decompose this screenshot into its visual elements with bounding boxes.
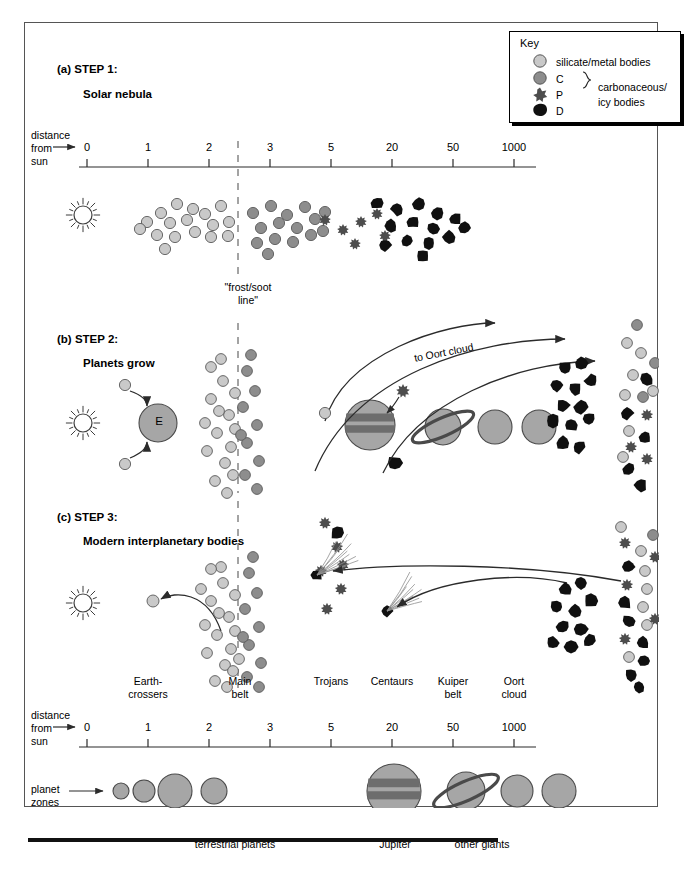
axis-tick-label: 20 (374, 141, 410, 154)
uranus-planet-zone (501, 775, 533, 807)
d-type-body (584, 634, 596, 646)
silicate-body (206, 394, 217, 405)
d-type-body (568, 604, 581, 618)
silicate-body (210, 476, 221, 487)
sun-ray (87, 589, 89, 593)
d-type-body (638, 656, 651, 666)
key-group-label-line1: carbonaceous/ (598, 81, 667, 93)
sun-ray (71, 411, 76, 416)
sun-ray (90, 430, 95, 435)
zone-label-1: Main (200, 675, 280, 688)
bottom-axis-label-line2: from (31, 722, 52, 734)
d-type-body (634, 681, 644, 693)
terrestrial-planet-3 (158, 774, 192, 808)
key-group-label-line2: icy bodies (598, 96, 645, 108)
sun-ray (71, 430, 76, 435)
axis-tick-label: 1 (130, 141, 166, 154)
silicate-body (234, 654, 245, 665)
axis-tick-label: 2 (191, 721, 227, 734)
planet-zones-label-line1: planet (31, 783, 60, 795)
c-type-body (252, 588, 263, 599)
c-type-body (305, 229, 316, 240)
sun-ray (77, 225, 79, 229)
axis-tick-label: 3 (252, 141, 288, 154)
c-type-body (236, 430, 247, 441)
planet-zones-label-line2: zones (31, 796, 59, 808)
silicate-body (206, 362, 217, 373)
capture-arrow (387, 397, 399, 413)
c-type-body (247, 207, 258, 218)
d-type-body (417, 251, 428, 262)
silicate-body (230, 388, 241, 399)
d-type-body (402, 235, 413, 247)
c-type-body (256, 658, 267, 669)
silicate-body (171, 198, 182, 209)
c-type-body (648, 530, 659, 541)
ejection-arrow-0 (325, 323, 495, 421)
p-star-icon (533, 87, 547, 102)
d-type-body (583, 373, 596, 386)
d-type-body (559, 362, 570, 373)
silicate-body (206, 564, 217, 575)
axis-tick-label: 3 (252, 721, 288, 734)
c-type-body (244, 568, 255, 579)
d-type-body (574, 623, 589, 636)
step2-subtitle: Planets grow (83, 357, 155, 370)
d-type-body (407, 217, 419, 227)
silicate-body (199, 208, 210, 219)
p-type-body (641, 453, 653, 465)
sun-ray (77, 613, 79, 617)
silicate-body (220, 458, 231, 469)
c-type-body (254, 622, 265, 633)
bottom-axis-label-line1: distance (31, 709, 70, 721)
key-title: Key (520, 37, 539, 50)
d-type-body (640, 373, 652, 386)
c-type-body (273, 217, 284, 228)
step2-tag: (b) STEP 2: (57, 333, 118, 346)
d-type-body (449, 214, 460, 225)
d-type-body (564, 640, 579, 653)
zone-label-5-line2: cloud (474, 688, 554, 701)
p-type-body (619, 633, 631, 645)
silicate-body (624, 426, 635, 437)
sun-ray (90, 610, 95, 615)
sun-icon-step3 (74, 594, 92, 612)
bottom-rule (28, 838, 498, 842)
d-type-body (431, 207, 443, 220)
axis-tick-label: 0 (69, 721, 105, 734)
d-type-body (550, 380, 563, 393)
silicate-body (642, 584, 653, 595)
d-type-body (574, 442, 586, 455)
axis-tick-label: 1000 (496, 141, 532, 154)
silicate-body (636, 546, 647, 557)
d-type-body (637, 636, 648, 648)
accretion-arrow (130, 391, 147, 406)
d-type-body (585, 593, 598, 606)
c-type-body (638, 392, 649, 403)
d-type-body (371, 198, 384, 208)
sun-ray (77, 589, 79, 593)
d-type-body (379, 240, 392, 252)
silicate-body (214, 406, 225, 417)
d-type-body (559, 582, 572, 594)
sun-ray (93, 607, 97, 609)
c-type-body (252, 420, 263, 431)
p-type-body (641, 409, 653, 421)
c-type-body (650, 358, 659, 369)
sun-ray (87, 201, 89, 205)
silicate-body (224, 410, 235, 421)
silicate-body (200, 418, 211, 429)
d-type-body (384, 219, 396, 233)
axis-tick-label: 0 (69, 141, 105, 154)
d-type-body (622, 560, 636, 572)
silicate-body (222, 230, 233, 241)
p-type-body (355, 216, 367, 228)
p-type-body (319, 517, 331, 529)
p-type-body (371, 208, 383, 220)
c-type-body (262, 248, 273, 259)
zone-label-0-line2: crossers (108, 688, 188, 701)
sun-ray (69, 209, 73, 211)
d-type-body (575, 356, 588, 369)
p-type-body (331, 541, 343, 553)
c-type-body (240, 470, 251, 481)
